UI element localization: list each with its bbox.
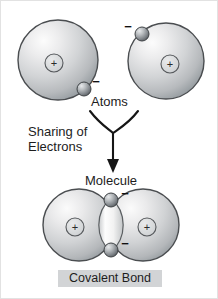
atoms-label: Atoms [91,94,128,109]
molecule-label: Molecule [85,173,137,188]
shared-electron-bottom [104,243,118,257]
shared-electron-top-charge: − [121,186,129,201]
molecule-right-nucleus-charge: + [144,221,150,233]
sharing-brace-arrow [90,111,138,164]
atom-left-electron [77,82,91,96]
brace-right-arm [113,111,138,133]
covalent-bond-caption: Covalent Bond [69,271,151,285]
shared-electron-top [104,193,118,207]
atom-left-nucleus-charge: + [51,57,57,69]
molecule-left-nucleus-charge: + [72,221,78,233]
atom-left: + − [18,20,100,100]
covalent-bond-figure: + − + − Atoms Sharing of Electrons Molec… [0,0,218,299]
arrow-head [107,159,119,173]
shared-electron-bottom-charge: − [121,236,129,251]
sharing-label-line2: Electrons [28,139,83,154]
atom-right: + − [124,19,204,99]
covalent-bond-diagram: + − + − Atoms Sharing of Electrons Molec… [1,1,218,299]
atom-left-electron-charge: − [92,74,100,89]
molecule-diagram: + + − − [43,186,179,261]
atom-right-electron [135,27,149,41]
atom-right-nucleus-charge: + [167,58,173,70]
atom-right-electron-charge: − [124,19,132,34]
brace-left-arm [90,111,113,133]
sharing-label-line1: Sharing of [28,124,88,139]
